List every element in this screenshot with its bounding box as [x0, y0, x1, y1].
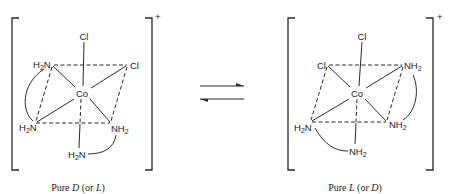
left-bracket-close [145, 18, 152, 170]
left-bond-lower-right [90, 99, 110, 122]
right-atom-center: Co [351, 88, 363, 99]
left-charge: + [155, 11, 161, 22]
right-bond-lower-right [365, 99, 386, 121]
right-bond-bottom [355, 123, 356, 144]
left-bond-upper-right [91, 66, 126, 88]
left-chelate-arc-left [25, 69, 44, 121]
left-atom-lower-right: NH2 [111, 123, 129, 135]
right-bond-upper-right [366, 66, 402, 88]
left-bond-top [83, 42, 84, 86]
right-bond-lower-left [312, 99, 349, 121]
left-bond-upper-left [53, 66, 75, 87]
right-bond-upper-left [328, 66, 350, 87]
left-complex: + Cl Co H2N Cl H2N NH2 H2N Pure D (or L) [12, 11, 161, 194]
equilibrium-arrows [200, 83, 244, 102]
right-complex: + Cl Co Cl NH2 H2N NH2 NH2 Pure L (or D) [288, 11, 443, 194]
diagram-canvas: + Cl Co H2N Cl H2N NH2 H2N Pure D (or L) [0, 0, 450, 194]
right-atom-top: Cl [358, 31, 367, 42]
right-atom-bottom: NH2 [349, 146, 367, 158]
left-atom-bottom: H2N [68, 149, 86, 161]
left-atom-upper-right: Cl [130, 60, 139, 71]
left-atom-top: Cl [80, 31, 89, 42]
right-chelate-arc-right [403, 75, 416, 120]
left-bracket-open [12, 18, 19, 170]
right-atom-upper-left: Cl [317, 60, 326, 71]
right-atom-lower-right: NH2 [389, 119, 407, 131]
left-atom-center: Co [76, 88, 88, 99]
forward-arrow-head-icon [236, 83, 244, 86]
right-bond-bottom-hidden [356, 99, 357, 122]
right-bracket-close [426, 18, 433, 170]
right-chelate-arc-bottom [315, 128, 348, 151]
right-bracket-open [288, 18, 295, 170]
left-bond-bottom [79, 124, 80, 148]
right-plane-right-edge [387, 67, 403, 120]
right-bond-top [359, 42, 362, 86]
right-charge: + [437, 11, 443, 22]
left-plane-left-edge [36, 67, 52, 121]
left-plane-right-edge [111, 67, 127, 121]
right-plane-left-edge [311, 67, 327, 120]
left-bond-lower-left [37, 99, 74, 122]
left-caption: Pure D (or L) [51, 182, 105, 194]
right-atom-upper-right: NH2 [404, 60, 422, 72]
left-bond-bottom-hidden [80, 99, 81, 123]
left-chelate-arc-bottom [88, 135, 116, 154]
left-atom-lower-left: H2N [19, 122, 37, 134]
right-atom-lower-left: H2N [294, 122, 312, 134]
right-caption: Pure L (or D) [328, 182, 382, 194]
left-atom-upper-left: H2N [33, 59, 51, 71]
reverse-arrow-head-icon [200, 99, 208, 102]
